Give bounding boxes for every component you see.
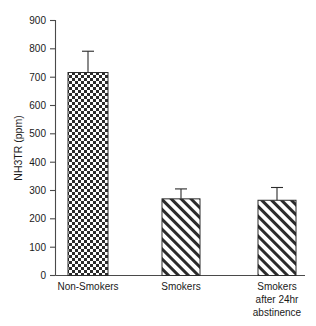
- bar-group-smokers-after-24hr-abstinence: [258, 187, 296, 275]
- y-tick-label-0: 0: [40, 270, 46, 281]
- y-tick-label-200: 200: [29, 213, 46, 224]
- y-tick-label-100: 100: [29, 242, 46, 253]
- chart-canvas: 900 800 700 600 500 400 300 200 100 0 NH…: [0, 0, 316, 326]
- y-tick-label-900: 900: [29, 15, 46, 26]
- x-category-label-non-smokers: Non-Smokers: [57, 281, 118, 292]
- bar-smokers: [162, 199, 200, 276]
- y-tick-label-800: 800: [29, 43, 46, 54]
- bar-group-smokers: [162, 189, 200, 276]
- bar-non-smokers: [68, 73, 108, 276]
- bar-smokers-after-24hr-abstinence: [258, 200, 296, 275]
- y-tick-label-600: 600: [29, 100, 46, 111]
- bar-group-non-smokers: [68, 51, 108, 275]
- x-category-label-smokers-abstinence-line2: after 24hr: [256, 294, 299, 305]
- y-tick-label-700: 700: [29, 72, 46, 83]
- y-tick-label-400: 400: [29, 157, 46, 168]
- y-tick-label-300: 300: [29, 185, 46, 196]
- y-axis-title: NH3TR (ppm): [12, 115, 24, 180]
- y-tick-label-500: 500: [29, 128, 46, 139]
- bar-chart: 900 800 700 600 500 400 300 200 100 0 NH…: [0, 0, 316, 326]
- x-category-label-smokers-abstinence-line3: abstinence: [253, 307, 302, 318]
- x-category-label-smokers: Smokers: [161, 281, 200, 292]
- x-category-label-smokers-abstinence-line1: Smokers: [257, 281, 296, 292]
- chart-background: [0, 0, 316, 326]
